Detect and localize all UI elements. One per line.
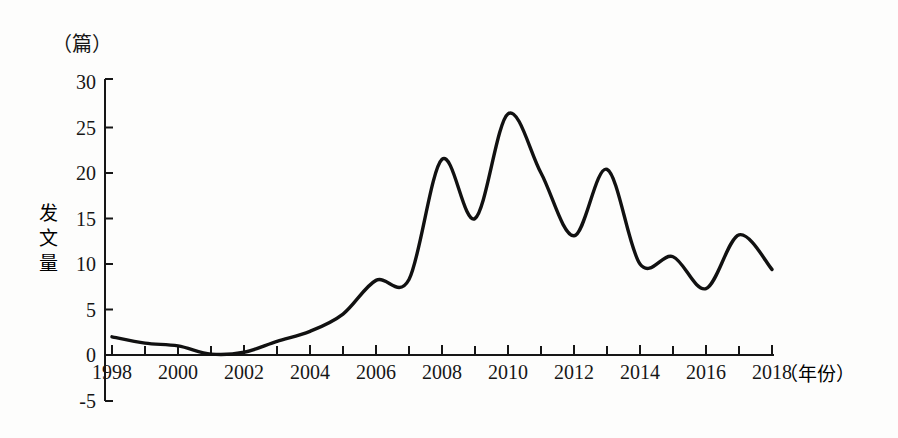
x-axis-tick-label: 2016 [686,361,726,383]
x-axis-tick-label: 2014 [620,361,660,383]
x-axis-tick-label: 2000 [158,361,198,383]
y-axis-tick-label: 15 [76,208,96,230]
y-axis-title-char-2: 文 [39,228,58,249]
chart-plot-svg: 302520151050-5 1998200020022004200620082… [0,0,898,438]
x-axis-tick-label: 2008 [422,361,462,383]
y-axis-tick-label: 10 [76,253,96,275]
x-axis-tick-label: 2004 [290,361,330,383]
x-axis-tick-label: 2010 [488,361,528,383]
y-axis-tick-label: 25 [76,117,96,139]
x-axis-tick-label: 2006 [356,361,396,383]
x-axis-tick-label: 1998 [92,361,132,383]
publication-trend-chart: 302520151050-5 1998200020022004200620082… [0,0,898,438]
y-axis-tick-label: 5 [86,299,96,321]
y-axis-unit-label: （篇） [52,33,112,55]
data-series-line-publications [112,113,772,355]
y-axis-title-char-3: 量 [39,253,58,274]
x-axis-tick-label: 2002 [224,361,264,383]
y-axis-tick-label: -5 [79,390,96,412]
x-axis-tick-label: 2012 [554,361,594,383]
y-axis-tick-label: 30 [76,71,96,93]
y-axis-title-char-1: 发 [39,203,58,224]
y-axis-tick-label: 20 [76,162,96,184]
x-axis-tick-label-group: 1998200020022004200620082010201220142016… [92,361,792,383]
x-axis-title-label: （年份） [779,364,855,385]
